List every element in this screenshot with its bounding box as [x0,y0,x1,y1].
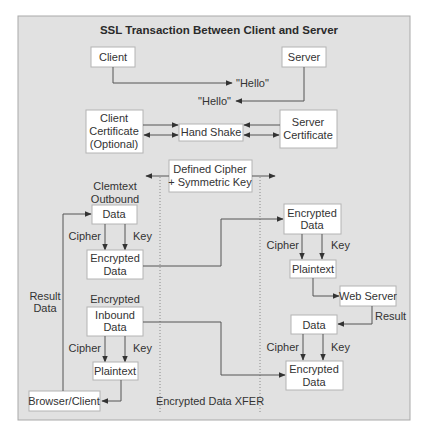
node-client-certificate: Client Certificate (Optional) [86,110,143,153]
in-cipher-label: Cipher [69,342,102,354]
node-inbound-data: Inbound Data [87,307,143,336]
node-browser-client: Browser/Client [28,391,100,411]
node-server-encrypted-data: Encrypted Data [284,204,341,234]
xfer-label: Encrypted Data XFER [156,395,264,407]
svg-text:Defined Cipher: Defined Cipher [173,163,247,175]
hello-to-server-label: "Hello" [236,77,269,89]
node-server: Server [282,47,326,67]
svg-text:Certificate: Certificate [89,125,139,137]
node-server-data: Data [291,315,337,334]
clemtext-label: Clemtext [93,180,136,192]
svg-text:Data: Data [302,376,326,388]
node-server-encrypted-data-out: Encrypted Data [286,361,343,390]
out-key-label: Key [133,230,152,242]
svg-text:Certificate: Certificate [283,129,333,141]
svg-text:Server: Server [292,116,325,128]
node-server-certificate: Server Certificate [280,110,337,148]
svg-text:Data: Data [103,265,127,277]
svg-text:Client: Client [99,51,127,63]
svg-text:Data: Data [300,219,324,231]
hello-to-client-label: "Hello" [198,95,231,107]
svg-text:Data: Data [103,321,127,333]
node-outbound-encrypted-data: Encrypted Data [87,250,143,279]
srv-key-label: Key [331,239,350,251]
srv-cipher-label: Cipher [267,239,300,251]
svg-text:(Optional): (Optional) [90,138,138,150]
outbound-label: Outbound [91,193,139,205]
svg-text:Hand Shake: Hand Shake [181,126,242,138]
svg-text:Web Server: Web Server [339,290,397,302]
diagram-panel [18,16,410,420]
diagram-title: SSL Transaction Between Client and Serve… [100,24,339,36]
encrypted-heading-label: Encrypted [90,293,140,305]
node-defined-cipher-key: Defined Cipher + Symmetric Key [168,160,252,192]
svg-text:Client: Client [100,112,128,124]
srv2-cipher-label: Cipher [267,341,300,353]
svg-text:Server: Server [288,51,321,63]
node-inbound-plaintext: Plaintext [93,362,138,380]
result-data-label-1: Result [29,290,60,302]
svg-text:Plaintext: Plaintext [94,365,136,377]
node-web-server: Web Server [339,286,397,306]
svg-text:Browser/Client: Browser/Client [28,395,100,407]
ssl-transaction-diagram: SSL Transaction Between Client and Serve… [0,0,421,433]
result-data-label-2: Data [33,302,57,314]
svg-text:Encrypted: Encrypted [287,207,337,219]
result-label: Result [375,310,406,322]
svg-text:Encrypted: Encrypted [289,363,339,375]
node-handshake: Hand Shake [179,124,243,141]
srv2-key-label: Key [331,341,350,353]
svg-text:Data: Data [102,208,126,220]
node-outbound-data: Data [92,205,137,224]
out-cipher-label: Cipher [69,230,102,242]
svg-text:Inbound: Inbound [95,309,135,321]
svg-text:Encrypted: Encrypted [90,252,140,264]
svg-text:Plaintext: Plaintext [292,263,334,275]
node-server-plaintext: Plaintext [290,260,336,278]
node-client: Client [91,47,135,67]
in-key-label: Key [133,342,152,354]
svg-text:+ Symmetric Key: + Symmetric Key [168,176,252,188]
svg-text:Data: Data [302,319,326,331]
